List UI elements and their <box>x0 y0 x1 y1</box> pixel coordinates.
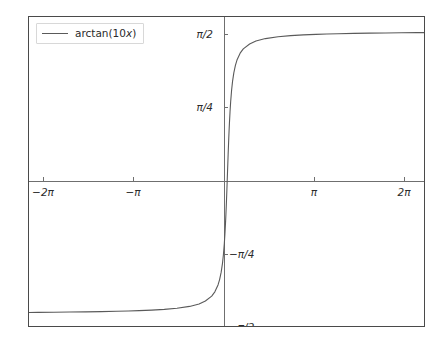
legend-line-swatch <box>42 33 68 34</box>
legend-label-prefix: arctan(10 <box>75 27 126 39</box>
plot-surface: −2π −π π 2π π/2 π/4 −π/4 −π/2 arctan(10x… <box>29 17 424 326</box>
curve-arctan-10x <box>29 17 424 326</box>
figure-canvas: −2π −π π 2π π/2 π/4 −π/4 −π/2 arctan(10x… <box>0 0 444 350</box>
plot-frame: −2π −π π 2π π/2 π/4 −π/4 −π/2 arctan(10x… <box>28 16 425 327</box>
curve-path <box>29 33 424 313</box>
legend[interactable]: arctan(10x) <box>36 23 144 44</box>
legend-label: arctan(10x) <box>75 28 136 39</box>
legend-label-suffix: ) <box>132 27 136 39</box>
